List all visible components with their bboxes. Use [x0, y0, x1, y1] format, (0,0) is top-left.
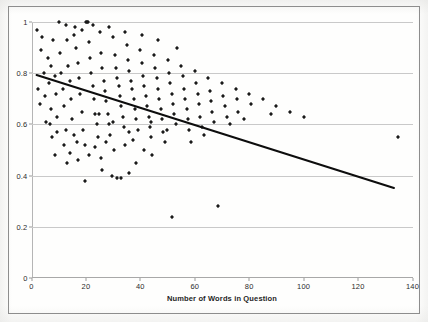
x-tick-mark: [412, 278, 413, 281]
x-tick-mark: [303, 278, 304, 281]
scatter-plot-figure: 00.20.40.60.81 020406080100120140 Number…: [0, 0, 428, 322]
data-point: [182, 86, 186, 90]
gridline-y: [32, 124, 413, 125]
data-point: [187, 127, 191, 131]
data-point: [236, 109, 240, 113]
y-axis-line: [32, 22, 33, 278]
data-point: [134, 117, 138, 121]
x-axis-line: [32, 277, 413, 278]
data-point: [123, 30, 127, 34]
data-point: [159, 107, 163, 111]
data-point: [55, 115, 59, 119]
y-tick-mark: [29, 73, 32, 74]
data-point: [114, 66, 118, 70]
x-tick-label: 100: [297, 282, 310, 291]
data-point: [129, 79, 133, 83]
data-point: [112, 148, 116, 152]
data-point: [86, 20, 90, 24]
x-tick-label: 80: [245, 282, 254, 291]
data-point: [148, 125, 152, 129]
data-point: [118, 94, 122, 98]
x-tick-label: 120: [352, 282, 365, 291]
data-point: [223, 104, 227, 108]
data-point: [210, 109, 214, 113]
data-point: [103, 89, 107, 93]
x-tick-mark: [31, 278, 32, 281]
data-point: [68, 150, 72, 154]
data-point: [197, 102, 201, 106]
data-point: [193, 69, 197, 73]
plot-area: 00.20.40.60.81 020406080100120140 Number…: [32, 22, 413, 278]
data-point: [127, 69, 131, 73]
data-point: [74, 45, 78, 49]
data-point: [130, 86, 134, 90]
data-point: [136, 127, 140, 131]
y-tick-label: 0.8: [16, 69, 27, 78]
data-point: [125, 43, 129, 47]
data-point: [112, 53, 116, 57]
y-tick-label: 1: [23, 18, 27, 27]
data-point: [206, 76, 210, 80]
data-point: [72, 33, 76, 37]
data-point: [235, 97, 239, 101]
x-tick-label: 20: [82, 282, 91, 291]
data-point: [127, 171, 131, 175]
data-point: [119, 104, 123, 108]
data-point: [76, 61, 80, 65]
data-point: [59, 71, 63, 75]
data-point: [174, 122, 178, 126]
data-point: [172, 112, 176, 116]
data-point: [77, 76, 81, 80]
data-point: [163, 140, 167, 144]
x-tick-label: 40: [136, 282, 145, 291]
data-point: [261, 97, 265, 101]
data-point: [116, 84, 120, 88]
data-point: [50, 135, 54, 139]
x-axis-label: Number of Words in Question: [32, 294, 413, 303]
data-point: [96, 135, 100, 139]
data-point: [97, 112, 101, 116]
data-point: [82, 143, 86, 147]
y-tick-mark: [29, 226, 32, 227]
data-point: [39, 48, 43, 52]
y-tick-label: 0.2: [16, 222, 27, 231]
data-point: [202, 133, 206, 137]
data-point: [119, 176, 123, 180]
data-point: [65, 38, 69, 42]
data-point: [134, 161, 138, 165]
data-point: [80, 28, 84, 32]
data-point: [53, 74, 57, 78]
data-point: [100, 66, 104, 70]
data-point: [156, 38, 160, 42]
data-point: [104, 99, 108, 103]
data-point: [167, 71, 171, 75]
x-tick-mark: [140, 278, 141, 281]
data-point: [170, 214, 174, 218]
data-point: [99, 51, 103, 55]
data-point: [165, 127, 169, 131]
y-tick-label: 0: [23, 274, 27, 283]
x-tick-label: 0: [29, 282, 33, 291]
data-point: [141, 148, 145, 152]
data-point: [48, 122, 52, 126]
data-point: [57, 20, 61, 24]
data-point: [46, 56, 50, 60]
data-point: [92, 97, 96, 101]
data-point: [95, 122, 99, 126]
gridline-y: [32, 176, 413, 177]
data-point: [80, 109, 84, 113]
data-point: [89, 71, 93, 75]
data-point: [152, 53, 156, 57]
data-point: [42, 71, 46, 75]
y-tick-mark: [29, 22, 32, 23]
data-point: [101, 79, 105, 83]
data-point: [61, 143, 65, 147]
data-point: [38, 102, 42, 106]
data-point: [107, 122, 111, 126]
data-point: [175, 45, 179, 49]
data-point: [36, 86, 40, 90]
data-point: [242, 117, 246, 121]
data-point: [141, 74, 145, 78]
data-point: [69, 97, 73, 101]
data-point: [155, 76, 159, 80]
